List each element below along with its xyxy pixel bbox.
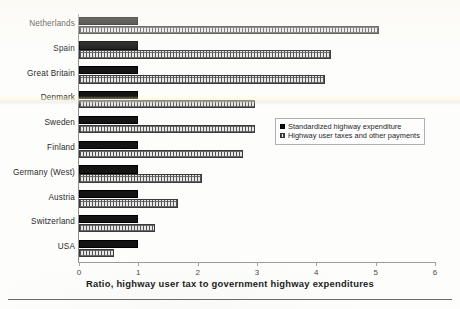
bar-row: Spain (79, 39, 435, 64)
bar-standardized-expenditure (79, 165, 138, 173)
bar-row: Great Britain (79, 64, 435, 89)
category-label: Switzerland (31, 217, 75, 226)
chart-caption: Ratio, highway user tax to government hi… (0, 278, 460, 289)
legend-item-user-taxes: Highway user taxes and other payments (280, 131, 420, 141)
bar-standardized-expenditure (79, 66, 138, 74)
footer-divider (8, 299, 452, 300)
x-axis-tick (198, 262, 199, 266)
bar-row: USA (79, 237, 435, 262)
bar-standardized-expenditure (79, 41, 138, 49)
bar-standardized-expenditure (79, 190, 138, 198)
bar-user-taxes (79, 199, 178, 207)
x-axis-tick-label: 2 (195, 268, 199, 277)
category-label: Austria (48, 193, 75, 202)
bar-row: Austria (79, 188, 435, 213)
category-label: Spain (53, 44, 75, 53)
legend-swatch-solid-icon (280, 124, 285, 129)
bar-standardized-expenditure (79, 215, 138, 223)
bar-standardized-expenditure (79, 17, 138, 25)
x-axis-tick-label: 3 (255, 268, 259, 277)
bar-user-taxes (79, 150, 243, 158)
category-label: Finland (47, 143, 75, 152)
legend-swatch-hatched-icon (280, 133, 285, 138)
bar-chart: 0123456 NetherlandsSpainGreat BritainDen… (0, 0, 460, 309)
x-axis-tick-label: 4 (314, 268, 318, 277)
bar-standardized-expenditure (79, 141, 138, 149)
bar-row: Denmark (79, 88, 435, 113)
x-axis-tick (257, 262, 258, 266)
x-axis-tick-label: 0 (77, 268, 81, 277)
bar-row: Netherlands (79, 14, 435, 39)
bar-user-taxes (79, 174, 202, 182)
category-label: Netherlands (29, 19, 75, 28)
category-label: Denmark (41, 93, 75, 102)
category-label: Germany (West) (13, 168, 75, 177)
bar-user-taxes (79, 249, 114, 257)
bar-standardized-expenditure (79, 240, 138, 248)
bar-standardized-expenditure (79, 116, 138, 124)
legend-label-standardized-expenditure: Standardized highway expenditure (288, 122, 401, 132)
bar-user-taxes (79, 125, 255, 133)
bar-user-taxes (79, 75, 325, 83)
bar-row: Germany (West) (79, 163, 435, 188)
x-axis-tick-label: 5 (373, 268, 377, 277)
x-axis-tick-label: 6 (433, 268, 437, 277)
legend-label-user-taxes: Highway user taxes and other payments (288, 131, 420, 141)
bar-user-taxes (79, 100, 255, 108)
x-axis-tick-label: 1 (136, 268, 140, 277)
bar-user-taxes (79, 224, 155, 232)
bar-row: Switzerland (79, 212, 435, 237)
x-axis-tick (376, 262, 377, 266)
x-axis-tick (138, 262, 139, 266)
x-axis-tick (79, 262, 80, 266)
legend-item-standardized-expenditure: Standardized highway expenditure (280, 122, 420, 132)
bar-user-taxes (79, 26, 379, 34)
category-label: Great Britain (27, 69, 75, 78)
category-label: USA (58, 242, 75, 251)
x-axis-tick (316, 262, 317, 266)
bar-standardized-expenditure (79, 91, 138, 99)
chart-legend: Standardized highway expenditure Highway… (275, 118, 425, 145)
x-axis-tick (435, 262, 436, 266)
category-label: Sweden (45, 118, 76, 127)
bar-user-taxes (79, 50, 331, 58)
